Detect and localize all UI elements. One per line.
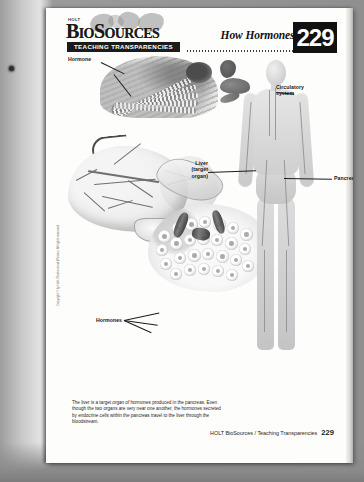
footer-page-number: 229 <box>321 428 334 437</box>
head <box>266 60 286 85</box>
figure-illustration: Hormone Circulatory system Liver (target… <box>52 54 340 399</box>
label-hormone: Hormone <box>68 56 91 62</box>
page-number-badge: 229 <box>293 22 337 53</box>
pancreas-acinar-fan-illustration <box>100 56 218 118</box>
pancreas-in-body <box>219 92 240 105</box>
page-header: HOLT BioSources TEACHING TRANSPARENCIES … <box>58 17 340 53</box>
brand-wordmark: BioSources <box>66 21 184 41</box>
label-pancreas: Pancreas <box>334 175 353 181</box>
label-circulatory-system: Circulatory system <box>276 84 304 97</box>
side-copyright-notice: Copyright © by Holt, Rinehart and Winsto… <box>57 186 60 306</box>
human-body-illustration <box>220 60 328 360</box>
vena-cava <box>269 90 270 136</box>
transparency-page: HOLT BioSources TEACHING TRANSPARENCIES … <box>46 8 353 463</box>
biosources-logo: HOLT BioSources TEACHING TRANSPARENCIES <box>66 17 180 51</box>
page-content: HOLT BioSources TEACHING TRANSPARENCIES … <box>46 8 346 463</box>
label-hormones: Hormones <box>96 317 122 323</box>
liver-in-body <box>220 78 250 94</box>
fan-duct <box>186 62 212 83</box>
left-leg <box>257 198 274 350</box>
leg-vessel-right <box>286 250 287 332</box>
series-bar-label: TEACHING TRANSPARENCIES <box>67 42 180 52</box>
leg-vessel-left <box>264 250 265 332</box>
pelvis <box>256 170 296 204</box>
footer-source-label: HOLT BioSources / Teaching Transparencie… <box>210 430 317 436</box>
label-liver-target-organ: Liver (target organ) <box>186 160 208 179</box>
screenshot-root: HOLT BioSources TEACHING TRANSPARENCIES … <box>0 0 364 482</box>
series-bar: TEACHING TRANSPARENCIES <box>67 42 180 52</box>
figure-caption: The liver is a target organ of hormones … <box>72 400 222 426</box>
heart <box>220 60 236 78</box>
hole-punch-mark <box>9 66 14 71</box>
page-edge <box>346 8 353 463</box>
page-footer: HOLT BioSources / Teaching Transparencie… <box>46 428 334 437</box>
leader-line-hormones-2 <box>124 313 159 321</box>
